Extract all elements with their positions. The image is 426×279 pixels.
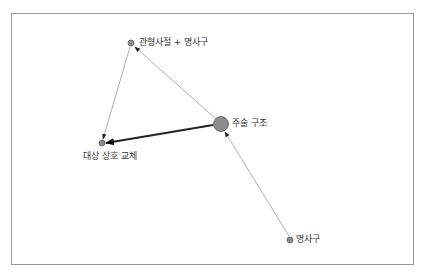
network-graph — [0, 0, 426, 279]
node-label-n4: 명사구 — [296, 234, 320, 245]
node-n3[interactable] — [99, 140, 105, 146]
node-n1[interactable] — [128, 40, 134, 46]
edge-n1-n3 — [103, 47, 130, 139]
node-label-n1: 관형사절 + 명사구 — [139, 37, 208, 48]
edge-n2-n1 — [135, 47, 216, 119]
node-n4[interactable] — [287, 237, 293, 243]
edge-n2-n3 — [106, 125, 213, 143]
edge-n4-n2 — [225, 132, 289, 236]
node-n2[interactable] — [214, 117, 229, 132]
node-label-n3: 대상 상호 교체 — [83, 151, 137, 162]
node-label-n2: 주술 구조 — [232, 118, 267, 129]
